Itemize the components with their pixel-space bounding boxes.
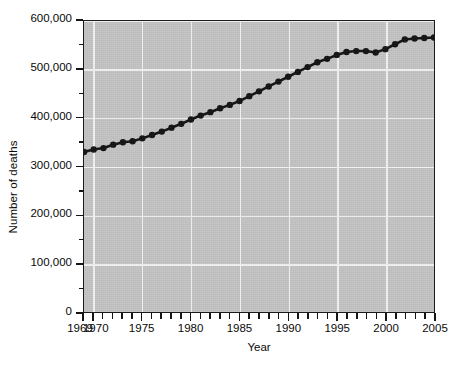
x-tick-major [141, 313, 143, 321]
data-point [382, 46, 388, 52]
data-point [100, 145, 106, 151]
data-point [91, 146, 97, 152]
y-tick-major [76, 19, 83, 21]
data-point [304, 64, 310, 70]
y-tick-label: 400,000 [2, 110, 72, 122]
data-point [314, 59, 320, 65]
data-point [363, 48, 369, 54]
y-tick-major [76, 166, 83, 168]
data-point [217, 105, 223, 111]
y-tick-label: 200,000 [2, 207, 72, 219]
data-point [188, 116, 194, 122]
data-point [139, 135, 145, 141]
data-point [227, 102, 233, 108]
data-point [83, 149, 87, 155]
data-point [411, 35, 417, 41]
y-tick-label: 100,000 [2, 256, 72, 268]
data-point [334, 52, 340, 58]
x-tick-minor [268, 313, 270, 319]
x-tick-minor [307, 313, 309, 319]
x-tick-minor [229, 313, 231, 319]
x-tick-minor [327, 313, 329, 319]
x-tick-minor [317, 313, 319, 319]
data-point [431, 34, 435, 40]
data-point [392, 41, 398, 47]
x-tick-minor [112, 313, 114, 319]
x-tick-minor [297, 313, 299, 319]
data-point [372, 49, 378, 55]
x-tick-major [92, 313, 94, 321]
data-point [353, 48, 359, 54]
x-tick-label: 2005 [405, 322, 465, 334]
x-tick-minor [151, 313, 153, 319]
x-tick-major [239, 313, 241, 321]
x-tick-major [336, 313, 338, 321]
x-axis-title: Year [83, 341, 435, 353]
series-markers [83, 34, 435, 155]
x-tick-major [190, 313, 192, 321]
data-point [285, 74, 291, 80]
data-point [129, 138, 135, 144]
x-tick-minor [219, 313, 221, 319]
data-point [120, 139, 126, 145]
x-tick-major [434, 313, 436, 321]
x-tick-minor [278, 313, 280, 319]
data-point [343, 49, 349, 55]
x-tick-minor [346, 313, 348, 319]
chart-figure: Number of deaths 0100,000200,000300,0004… [0, 0, 472, 374]
x-tick-minor [200, 313, 202, 319]
x-tick-minor [131, 313, 133, 319]
x-tick-minor [160, 313, 162, 319]
data-point [421, 35, 427, 41]
x-tick-major [82, 313, 84, 321]
data-point [324, 56, 330, 62]
y-axis-title: Number of deaths [0, 0, 26, 374]
data-point [178, 121, 184, 127]
y-tick-major [76, 215, 83, 217]
x-tick-minor [415, 313, 417, 319]
x-tick-minor [405, 313, 407, 319]
x-tick-minor [376, 313, 378, 319]
y-tick-major [76, 117, 83, 119]
data-point [256, 88, 262, 94]
data-point [402, 36, 408, 42]
x-tick-minor [102, 313, 104, 319]
x-tick-minor [366, 313, 368, 319]
data-point [246, 93, 252, 99]
y-axis-title-text: Number of deaths [7, 141, 19, 234]
x-tick-minor [248, 313, 250, 319]
series-line [84, 37, 434, 151]
y-tick-label: 300,000 [2, 159, 72, 171]
x-axis-title-text: Year [247, 341, 270, 353]
x-tick-minor [424, 313, 426, 319]
x-tick-minor [395, 313, 397, 319]
x-tick-minor [258, 313, 260, 319]
data-point [207, 109, 213, 115]
x-tick-minor [356, 313, 358, 319]
data-series-deaths [84, 21, 434, 312]
data-point [168, 125, 174, 131]
x-tick-minor [209, 313, 211, 319]
data-point [266, 83, 272, 89]
y-tick-label: 600,000 [2, 12, 72, 24]
y-tick-major [76, 263, 83, 265]
x-tick-major [288, 313, 290, 321]
data-point [197, 112, 203, 118]
y-tick-label: 0 [2, 305, 72, 317]
x-tick-minor [180, 313, 182, 319]
data-point [149, 132, 155, 138]
x-tick-minor [170, 313, 172, 319]
data-point [295, 69, 301, 75]
x-tick-minor [121, 313, 123, 319]
plot-area [83, 20, 435, 313]
data-point [159, 128, 165, 134]
data-point [236, 98, 242, 104]
y-tick-label: 500,000 [2, 61, 72, 73]
y-tick-major [76, 68, 83, 70]
data-point [110, 142, 116, 148]
x-tick-major [385, 313, 387, 321]
data-point [275, 78, 281, 84]
